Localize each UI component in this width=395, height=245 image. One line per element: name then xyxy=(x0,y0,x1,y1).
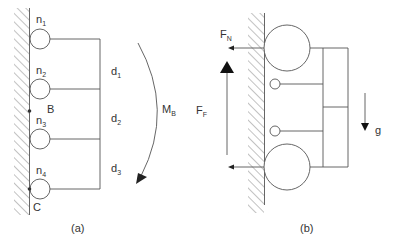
caption-a: (a) xyxy=(71,222,84,234)
point-label-b: B xyxy=(47,103,54,115)
gravity-arrow-icon xyxy=(361,93,369,131)
distance-label-d3: d3 xyxy=(111,162,121,176)
panel-b: FN FF g (b) xyxy=(196,13,381,234)
small-wheel-top xyxy=(270,79,280,89)
point-label-c: C xyxy=(33,201,41,213)
node-label-n4: n4 xyxy=(36,164,46,178)
large-wheel-bottom xyxy=(264,144,310,190)
frame-a xyxy=(49,39,100,189)
small-wheel-bottom xyxy=(270,126,280,136)
node-label-n3: n3 xyxy=(36,114,46,128)
caption-b: (b) xyxy=(300,222,313,234)
moment-label-mb: MB xyxy=(162,103,176,117)
node-label-n2: n2 xyxy=(36,64,46,78)
node-circle-n1 xyxy=(30,29,50,49)
large-wheel-top xyxy=(264,25,310,71)
node-label-n1: n1 xyxy=(36,13,46,27)
distance-label-d1: d1 xyxy=(111,65,121,79)
distance-label-d2: d2 xyxy=(111,112,121,126)
friction-force-arrow-icon xyxy=(220,61,234,155)
force-label-ff: FF xyxy=(196,104,207,118)
gravity-label-g: g xyxy=(375,124,381,136)
panel-a: n1 n2 n3 n4 B C d1 d2 d3 MB (a) xyxy=(14,8,176,234)
wall-b xyxy=(248,13,265,213)
node-circle-n4 xyxy=(30,179,50,199)
point-b-dot xyxy=(28,109,32,113)
force-label-fn: FN xyxy=(220,28,232,42)
wall-a xyxy=(14,8,30,215)
moment-arrow-icon xyxy=(136,43,157,184)
node-circle-n3 xyxy=(30,129,50,149)
diagram-canvas: n1 n2 n3 n4 B C d1 d2 d3 MB (a) xyxy=(0,0,395,245)
point-c-dot xyxy=(28,187,32,191)
node-circle-n2 xyxy=(30,79,50,99)
